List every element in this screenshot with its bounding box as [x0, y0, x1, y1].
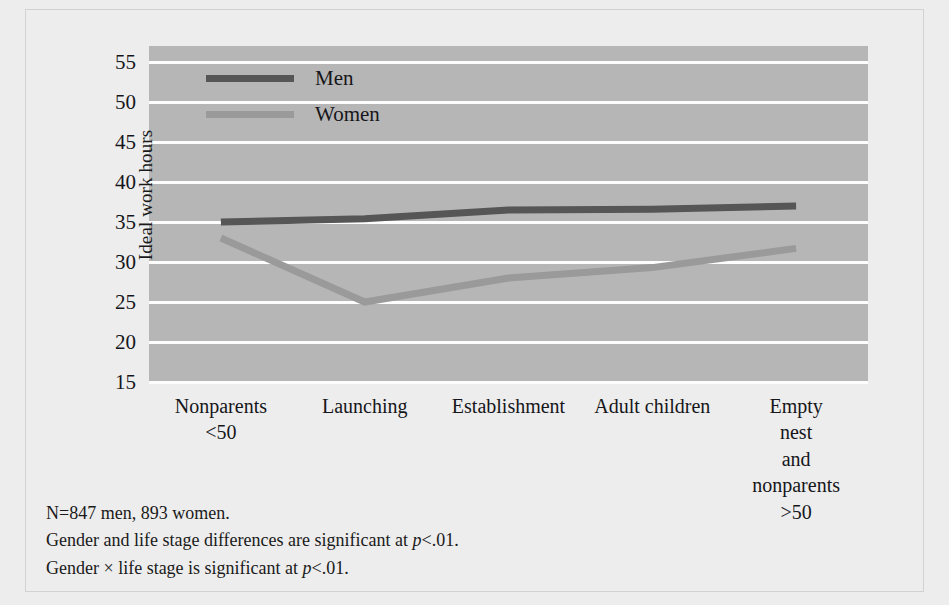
y-tick-label: 50	[115, 90, 136, 115]
note-text: Gender	[46, 558, 103, 578]
figure-notes: N=847 men, 893 women. Gender and life st…	[46, 500, 459, 582]
y-axis-title: Ideal work hours	[135, 30, 157, 360]
x-tick-label: Empty nest and nonparents >50	[752, 393, 840, 525]
y-tick-label: 15	[115, 370, 136, 395]
figure-container: Ideal work hours 555045403530252015 Nonp…	[0, 0, 949, 605]
note-text: Gender and life stage differences are si…	[46, 530, 413, 550]
y-tick-label: 25	[115, 290, 136, 315]
series-line-women	[221, 238, 796, 302]
x-tick-label: Establishment	[452, 393, 565, 419]
chart-legend: MenWomen	[206, 60, 380, 132]
note-text-tail: <.01.	[312, 558, 349, 578]
plot-area: Ideal work hours 555045403530252015 Nonp…	[149, 46, 868, 382]
legend-label: Men	[315, 66, 354, 91]
multiplication-icon: ×	[103, 558, 113, 578]
legend-swatch-icon	[206, 111, 294, 118]
legend-swatch-icon	[206, 75, 294, 82]
x-tick-label: Nonparents <50	[175, 393, 267, 446]
x-tick-label: Adult children	[594, 393, 710, 419]
y-tick-label: 40	[115, 170, 136, 195]
p-symbol: p	[303, 558, 312, 578]
y-tick-label: 20	[115, 330, 136, 355]
legend-item-women: Women	[206, 96, 380, 132]
y-tick-label: 45	[115, 130, 136, 155]
note-sample-size: N=847 men, 893 women.	[46, 500, 459, 527]
series-line-men	[221, 206, 796, 222]
note-significance-interaction: Gender × life stage is significant at p<…	[46, 555, 459, 582]
legend-item-men: Men	[206, 60, 380, 96]
note-text-mid: life stage is significant at	[114, 558, 303, 578]
y-tick-label: 35	[115, 210, 136, 235]
y-tick-label: 55	[115, 50, 136, 75]
p-symbol: p	[413, 530, 422, 550]
y-tick-label: 30	[115, 250, 136, 275]
legend-label: Women	[315, 102, 380, 127]
note-text-tail: <.01.	[422, 530, 459, 550]
note-significance-main: Gender and life stage differences are si…	[46, 527, 459, 554]
x-tick-label: Launching	[322, 393, 408, 419]
